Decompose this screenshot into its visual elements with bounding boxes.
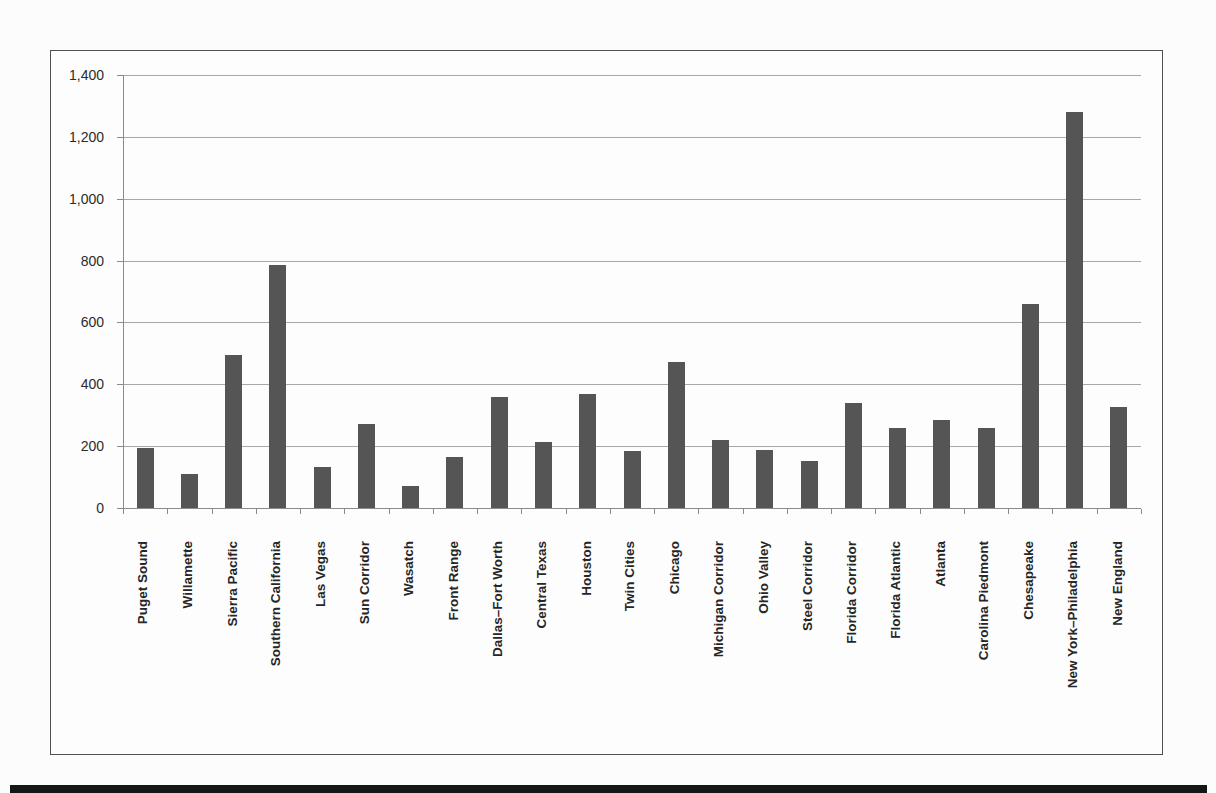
gridline-1400 bbox=[123, 75, 1141, 76]
x-category-label-florida-corridor: Florida Corridor bbox=[843, 541, 860, 644]
x-axis-line bbox=[123, 508, 1141, 509]
y-tick-label: 1,200 bbox=[69, 128, 104, 146]
x-axis-tick bbox=[698, 509, 699, 514]
bar-ohio-valley bbox=[756, 450, 773, 508]
x-category-label-sierra-pacific: Sierra Pacific bbox=[223, 541, 240, 627]
bar-chicago bbox=[668, 362, 685, 508]
x-axis-tick bbox=[212, 509, 213, 514]
x-category-label-southern-california: Southern California bbox=[267, 541, 284, 666]
y-tick-label: 1,400 bbox=[69, 66, 104, 84]
x-category-label-willamette: Willamette bbox=[179, 541, 196, 608]
bar-twin-cities bbox=[624, 451, 641, 508]
y-axis-line bbox=[123, 75, 124, 508]
bar-houston bbox=[579, 394, 596, 508]
x-category-label-sun-corridor: Sun Corridor bbox=[356, 541, 373, 624]
x-axis-tick bbox=[566, 509, 567, 514]
x-category-label-new-york-philadelphia: New York–Philadelphia bbox=[1064, 541, 1081, 688]
bar-florida-corridor bbox=[845, 403, 862, 508]
x-category-label-dallas-fort-worth: Dallas–Fort Worth bbox=[489, 541, 506, 657]
x-category-label-florida-atlantic: Florida Atlantic bbox=[887, 541, 904, 639]
gridline-800 bbox=[123, 261, 1141, 262]
x-category-label-front-range: Front Range bbox=[444, 541, 461, 621]
y-tick-label: 200 bbox=[81, 437, 104, 455]
x-axis-tick bbox=[123, 509, 124, 514]
bar-puget-sound bbox=[137, 448, 154, 508]
bar-southern-california bbox=[269, 265, 286, 508]
x-category-label-twin-cities: Twin Cities bbox=[622, 541, 639, 611]
x-axis-tick bbox=[1008, 509, 1009, 514]
y-tick-label: 0 bbox=[96, 499, 104, 517]
bar-chart-figure: 02004006008001,0001,2001,400Puget SoundW… bbox=[50, 50, 1163, 755]
x-category-label-carolina-piedmont: Carolina Piedmont bbox=[976, 541, 993, 660]
bar-michigan-corridor bbox=[712, 440, 729, 508]
page-footer-band bbox=[10, 785, 1207, 793]
x-axis-tick bbox=[344, 509, 345, 514]
gridline-1000 bbox=[123, 199, 1141, 200]
y-tick-label: 400 bbox=[81, 375, 104, 393]
y-tick-label: 1,000 bbox=[69, 190, 104, 208]
x-axis-tick bbox=[1097, 509, 1098, 514]
x-axis-tick bbox=[610, 509, 611, 514]
bar-florida-atlantic bbox=[889, 428, 906, 508]
y-tick-label: 800 bbox=[81, 252, 104, 270]
y-tick-label: 600 bbox=[81, 313, 104, 331]
bar-front-range bbox=[446, 457, 463, 508]
x-category-label-houston: Houston bbox=[577, 541, 594, 596]
x-category-label-chesapeake: Chesapeake bbox=[1020, 541, 1037, 620]
bar-chesapeake bbox=[1022, 304, 1039, 508]
scanned-page: 02004006008001,0001,2001,400Puget SoundW… bbox=[0, 0, 1216, 793]
x-axis-tick bbox=[477, 509, 478, 514]
bar-willamette bbox=[181, 474, 198, 508]
x-category-label-central-texas: Central Texas bbox=[533, 541, 550, 629]
bar-dallas-fort-worth bbox=[491, 397, 508, 508]
x-axis-tick bbox=[654, 509, 655, 514]
x-axis-tick bbox=[920, 509, 921, 514]
x-axis-tick bbox=[167, 509, 168, 514]
bar-sun-corridor bbox=[358, 424, 375, 508]
bar-steel-corridor bbox=[801, 461, 818, 508]
x-category-label-steel-corridor: Steel Corridor bbox=[799, 541, 816, 631]
x-category-label-las-vegas: Las Vegas bbox=[312, 541, 329, 607]
bar-new-york-philadelphia bbox=[1066, 112, 1083, 508]
x-category-label-puget-sound: Puget Sound bbox=[135, 541, 152, 624]
x-category-label-chicago: Chicago bbox=[666, 541, 683, 594]
bar-carolina-piedmont bbox=[978, 428, 995, 508]
bar-atlanta bbox=[933, 420, 950, 508]
x-axis-tick bbox=[875, 509, 876, 514]
x-axis-tick bbox=[300, 509, 301, 514]
x-axis-tick bbox=[389, 509, 390, 514]
x-axis-tick bbox=[433, 509, 434, 514]
x-axis-tick bbox=[521, 509, 522, 514]
bar-las-vegas bbox=[314, 467, 331, 508]
x-category-label-new-england: New England bbox=[1108, 541, 1125, 626]
x-axis-tick bbox=[831, 509, 832, 514]
x-axis-tick bbox=[964, 509, 965, 514]
x-axis-tick bbox=[1141, 509, 1142, 514]
bar-central-texas bbox=[535, 442, 552, 508]
gridline-1200 bbox=[123, 137, 1141, 138]
x-category-label-michigan-corridor: Michigan Corridor bbox=[710, 541, 727, 657]
x-category-label-ohio-valley: Ohio Valley bbox=[754, 541, 771, 614]
x-axis-tick bbox=[1052, 509, 1053, 514]
x-category-label-atlanta: Atlanta bbox=[931, 541, 948, 587]
x-axis-tick bbox=[256, 509, 257, 514]
bar-new-england bbox=[1110, 407, 1127, 508]
x-axis-tick bbox=[787, 509, 788, 514]
bar-wasatch bbox=[402, 486, 419, 508]
bar-sierra-pacific bbox=[225, 355, 242, 508]
x-category-label-wasatch: Wasatch bbox=[400, 541, 417, 596]
x-axis-tick bbox=[743, 509, 744, 514]
